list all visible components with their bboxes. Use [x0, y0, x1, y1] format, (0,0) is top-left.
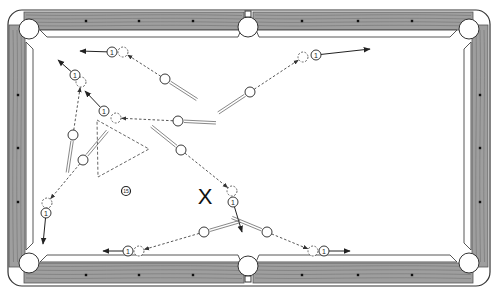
- ball-15-label: 15: [123, 188, 129, 194]
- pocket-bottom-right: [459, 253, 479, 273]
- diamond-right: [479, 147, 481, 149]
- diamond-bottom: [85, 274, 87, 276]
- pocket-bottom-middle: [238, 256, 258, 276]
- object-ball-1-label: 1: [110, 49, 114, 56]
- cue-ball: [68, 130, 78, 140]
- object-ball-1-label: 1: [44, 210, 48, 217]
- top-cushion-right: [256, 30, 457, 37]
- diamond-left: [17, 94, 19, 96]
- diamond-bottom: [192, 274, 194, 276]
- pool-table: 11111111 15 X: [0, 0, 497, 292]
- ghost-ball: [134, 246, 144, 256]
- object-ball-1-label: 1: [102, 108, 106, 115]
- ghost-ball: [118, 47, 128, 57]
- object-ball-1-label: 1: [322, 248, 326, 255]
- top-rail-right: [253, 12, 473, 30]
- object-ball-1-label: 1: [73, 72, 77, 79]
- diamond-bottom: [138, 274, 140, 276]
- object-ball-1-label: 1: [126, 248, 130, 255]
- pocket-bottom-middle-notch: [245, 276, 251, 282]
- diamond-right: [479, 94, 481, 96]
- pool-table-diagram: 11111111 15 X: [0, 0, 497, 292]
- diamond-left: [17, 147, 19, 149]
- ghost-ball: [42, 198, 52, 208]
- top-rail-left: [24, 12, 244, 30]
- diamond-bottom: [411, 274, 413, 276]
- ghost-ball: [227, 186, 237, 196]
- object-ball-1-label: 1: [314, 52, 318, 59]
- cue-ball: [78, 155, 88, 165]
- diamond-top: [357, 20, 359, 22]
- diamond-right: [479, 201, 481, 203]
- bottom-cushion-right: [256, 255, 457, 262]
- cue-ball: [160, 74, 170, 84]
- top-cushion-left: [40, 30, 241, 37]
- diamond-top: [85, 20, 87, 22]
- right-cushion: [464, 42, 471, 250]
- cue-ball: [176, 145, 186, 155]
- cue-ball: [245, 87, 255, 97]
- cue-ball: [199, 227, 209, 237]
- pocket-bottom-left: [19, 253, 39, 273]
- object-ball-1-label: 1: [231, 199, 235, 206]
- pocket-top-right: [459, 19, 479, 39]
- left-cushion: [26, 42, 33, 250]
- cue-ball: [262, 227, 272, 237]
- diamond-top: [192, 20, 194, 22]
- pocket-top-left: [19, 19, 39, 39]
- diamond-top: [301, 20, 303, 22]
- x-marker: X: [198, 184, 213, 209]
- pocket-top-middle: [238, 17, 258, 37]
- diamond-bottom: [301, 274, 303, 276]
- diamond-bottom: [357, 274, 359, 276]
- diamond-top: [411, 20, 413, 22]
- bottom-cushion-left: [40, 255, 241, 262]
- diamond-top: [138, 20, 140, 22]
- ghost-ball: [111, 113, 121, 123]
- cue-ball: [173, 116, 183, 126]
- ball-15: 15: [122, 187, 131, 196]
- ghost-ball: [308, 246, 318, 256]
- ghost-ball: [298, 52, 308, 62]
- pocket-top-middle-notch: [245, 11, 251, 17]
- diamond-left: [17, 201, 19, 203]
